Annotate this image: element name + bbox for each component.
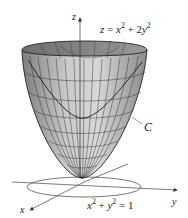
paraboloid-diagram: [0, 0, 188, 218]
y-axis: [12, 182, 177, 190]
y-axis-label: y: [172, 197, 176, 207]
curve-c-label: C: [144, 121, 152, 133]
c-leader-line: [132, 117, 142, 124]
paraboloid-rim: [22, 41, 147, 56]
unit-circle-ellipse: [27, 177, 141, 197]
paraboloid-surface: [22, 50, 147, 178]
x-axis: [30, 182, 84, 210]
surface-equation-label: z = x2 + 2y2: [100, 24, 151, 35]
z-axis-label: z: [72, 12, 76, 22]
base-equation-label: x2 + y2 = 1: [87, 200, 133, 211]
paraboloid-figure: z z = x2 + 2y2 C y x x2 + y2 = 1: [0, 0, 188, 218]
x-axis-label: x: [20, 205, 24, 215]
